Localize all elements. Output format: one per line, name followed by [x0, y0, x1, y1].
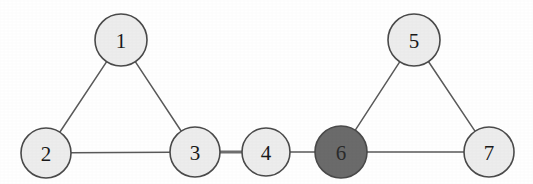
node-label-7: 7 [484, 141, 495, 165]
node-3[interactable]: 3 [170, 127, 220, 177]
node-label-4: 4 [261, 141, 272, 165]
node-4[interactable]: 4 [242, 128, 290, 176]
node-2[interactable]: 2 [21, 128, 71, 178]
edge-1-2 [59, 61, 107, 133]
node-label-6: 6 [336, 141, 347, 165]
edge-6-5 [355, 61, 401, 131]
node-label-5: 5 [409, 29, 420, 53]
node-1[interactable]: 1 [95, 14, 147, 66]
graph-diagram: 1234567 [0, 0, 533, 184]
node-7[interactable]: 7 [464, 127, 514, 177]
node-5[interactable]: 5 [388, 14, 440, 66]
node-label-2: 2 [41, 142, 52, 166]
edge-1-3 [135, 61, 182, 132]
node-6[interactable]: 6 [315, 126, 367, 178]
edge-2-3 [70, 152, 171, 153]
node-label-3: 3 [190, 141, 201, 165]
edge-5-7 [428, 61, 476, 132]
node-label-1: 1 [116, 29, 127, 53]
graph-canvas: 1234567 [0, 0, 533, 184]
